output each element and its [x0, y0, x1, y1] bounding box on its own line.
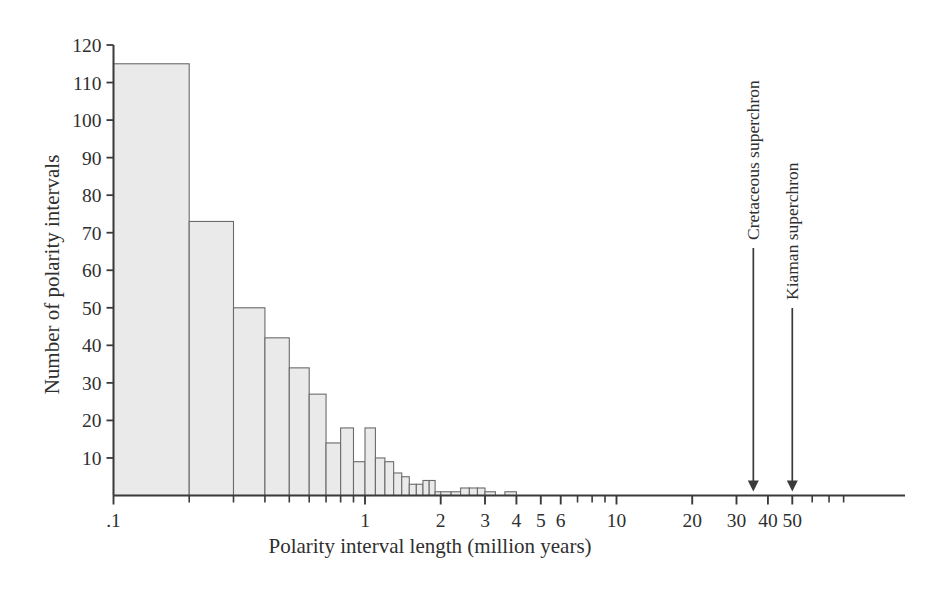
y-tick-label: 20: [82, 410, 102, 431]
histogram-figure: Number of polarity intervals Polarity in…: [0, 0, 931, 596]
histogram-bar: [402, 477, 410, 496]
histogram-bar: [114, 64, 190, 496]
x-tick-label: 40: [758, 510, 778, 531]
histogram-bar: [385, 462, 394, 496]
histogram-bar: [353, 462, 365, 496]
y-tick-label: 50: [82, 298, 102, 319]
histogram-bar: [394, 473, 402, 496]
y-tick-label: 70: [82, 223, 102, 244]
chart-plot-area: 102030405060708090100110120 .11234561020…: [0, 0, 931, 596]
x-tick-label: 1: [360, 510, 370, 531]
x-tick-label: .1: [106, 510, 121, 531]
histogram-bar: [309, 394, 326, 495]
histogram-bar: [289, 368, 309, 496]
histogram-bar: [409, 484, 416, 495]
annotation-arrow-head: [748, 481, 759, 492]
y-tick-label: 120: [72, 35, 101, 56]
histogram-bar: [341, 428, 354, 496]
histogram-bar: [189, 221, 233, 495]
x-tick-label: 5: [536, 510, 546, 531]
x-tick-label: 50: [783, 510, 803, 531]
histogram-bar: [234, 308, 265, 496]
x-axis-ticks: .11234561020304050: [106, 496, 843, 531]
x-tick-label: 30: [727, 510, 747, 531]
y-tick-label: 30: [82, 373, 102, 394]
histogram-bar: [423, 480, 429, 495]
bars-group: [114, 64, 517, 496]
superchron-annotations: Cretaceous superchronKiaman superchron: [743, 80, 802, 492]
x-tick-label: 6: [556, 510, 566, 531]
histogram-bar: [365, 428, 375, 496]
y-tick-label: 80: [82, 185, 102, 206]
histogram-bar: [461, 488, 470, 496]
x-tick-label: 10: [607, 510, 627, 531]
y-tick-label: 10: [82, 448, 102, 469]
annotation-label: Cretaceous superchron: [743, 80, 763, 240]
y-tick-label: 100: [72, 110, 101, 131]
annotation-label: Kiaman superchron: [782, 162, 802, 300]
annotation-arrow-head: [787, 481, 798, 492]
y-tick-label: 90: [82, 148, 102, 169]
x-tick-label: 4: [512, 510, 522, 531]
y-tick-label: 40: [82, 335, 102, 356]
histogram-bar: [375, 458, 385, 496]
y-axis-ticks: 102030405060708090100110120: [72, 35, 113, 469]
histogram-bar: [469, 488, 477, 496]
histogram-bar: [326, 443, 341, 496]
x-tick-label: 20: [682, 510, 702, 531]
y-tick-label: 110: [73, 73, 102, 94]
y-tick-label: 60: [82, 260, 102, 281]
histogram-bar: [477, 488, 485, 496]
histogram-bar: [265, 338, 289, 496]
x-tick-label: 3: [480, 510, 490, 531]
histogram-bar: [429, 480, 435, 495]
histogram-bar: [416, 484, 423, 495]
x-tick-label: 2: [436, 510, 446, 531]
